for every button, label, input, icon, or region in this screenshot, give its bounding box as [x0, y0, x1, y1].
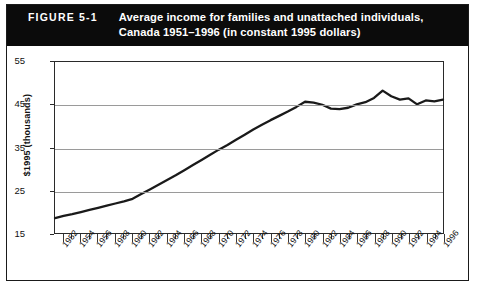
gridline: [55, 149, 443, 150]
figure-title-line-1: Average income for families and unattach…: [119, 10, 424, 25]
figure-container: FIGURE 5-1 Average income for families a…: [0, 0, 483, 289]
y-axis-label: $1995 (thousands): [22, 75, 32, 195]
gridline: [55, 105, 443, 106]
y-tick-mark: [50, 61, 54, 62]
plot-area: $1995 (thousands) 1525354555 19521954195…: [7, 46, 468, 280]
y-tick-mark: [50, 191, 54, 192]
y-tick-mark: [50, 148, 54, 149]
y-tick-label: 35: [0, 142, 25, 153]
x-axis-labels: 1952195419561958196019621964196619681970…: [54, 243, 444, 281]
y-tick-label: 55: [0, 55, 25, 66]
y-tick-label: 45: [0, 98, 25, 109]
income-polyline: [55, 91, 443, 218]
figure-title-banner: FIGURE 5-1 Average income for families a…: [7, 5, 468, 46]
y-tick-mark: [50, 104, 54, 105]
y-tick-label: 25: [0, 185, 25, 196]
figure-title: Average income for families and unattach…: [98, 10, 424, 40]
figure-number: FIGURE 5-1: [13, 10, 98, 23]
y-tick-label: 15: [0, 228, 25, 239]
income-line-series: [55, 62, 443, 233]
gridline: [55, 192, 443, 193]
figure-title-line-2: Canada 1951–1996 (in constant 1995 dolla…: [119, 25, 424, 40]
plot-frame: [54, 61, 444, 234]
